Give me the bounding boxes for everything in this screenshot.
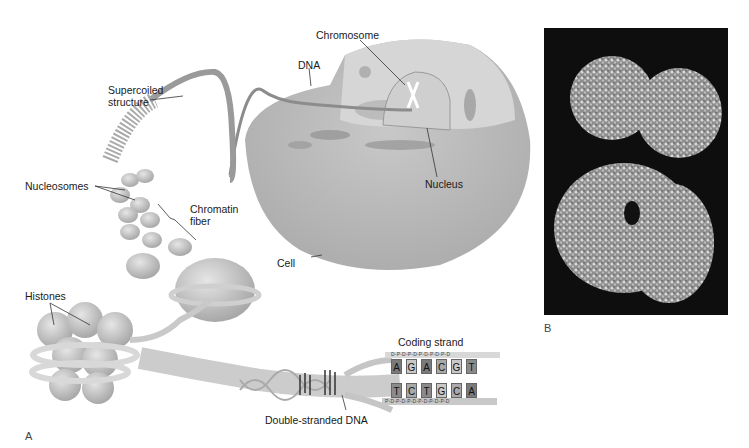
label-nucleosomes: Nucleosomes — [25, 180, 89, 192]
label-coding-strand: Coding strand — [398, 336, 463, 348]
base-top-4: C — [436, 359, 447, 374]
base-bottom-3: T — [421, 383, 432, 398]
panel-label-a: A — [25, 430, 32, 442]
chromosome-micrograph — [544, 28, 728, 315]
base-bottom-1: T — [391, 383, 402, 398]
cell-graphic — [245, 39, 530, 270]
base-bottom-4: G — [436, 383, 447, 398]
label-cell: Cell — [277, 257, 295, 269]
base-top-2: G — [406, 359, 417, 374]
base-bottom-6: A — [466, 383, 477, 398]
label-double-stranded-dna: Double-stranded DNA — [265, 414, 368, 426]
label-dna: DNA — [298, 59, 320, 71]
top-backbone-text: D-P-D-P-D-P-D-P-D-P-D — [391, 351, 450, 357]
label-nucleus: Nucleus — [425, 178, 463, 190]
base-bottom-2: C — [406, 383, 417, 398]
base-top-6: T — [466, 359, 477, 374]
label-supercoiled-structure: Supercoiled structure — [108, 84, 163, 108]
base-top-1: A — [391, 359, 402, 374]
histone-octamer — [32, 302, 137, 404]
base-bottom-5: C — [451, 383, 462, 398]
panel-label-b: B — [544, 322, 551, 334]
label-histones: Histones — [25, 290, 66, 302]
base-top-5: G — [451, 359, 462, 374]
label-chromatin-fiber: Chromatin fiber — [190, 203, 238, 227]
label-chromosome: Chromosome — [316, 29, 379, 41]
base-top-3: A — [421, 359, 432, 374]
